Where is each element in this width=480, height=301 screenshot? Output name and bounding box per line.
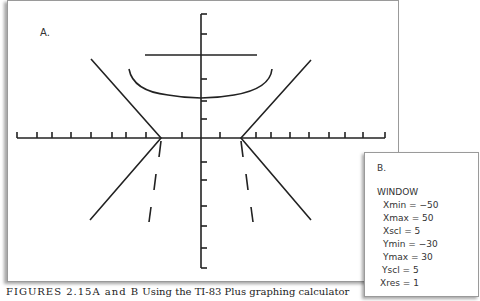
panel-b-label: B.: [377, 163, 386, 173]
panel-a-label: A.: [40, 27, 50, 38]
window-settings-panel-b: B. WINDOW Xmin = −50 Xmax = 50 Xscl = 5 …: [364, 152, 479, 297]
graph-plot: [8, 1, 398, 281]
figure-number: FIGURES 2.15A and B: [6, 286, 139, 297]
setting-ymax: Ymax = 30: [383, 252, 433, 262]
setting-xmax: Xmax = 50: [383, 213, 434, 223]
graph-panel-a: A.: [7, 0, 399, 282]
setting-xres: Xres = 1: [380, 278, 419, 288]
figure-caption: FIGURES 2.15A and B Using the TI-83 Plus…: [6, 286, 349, 297]
window-title: WINDOW: [377, 187, 418, 197]
setting-yscl: Yscl = 5: [382, 265, 419, 275]
caption-text: Using the TI-83 Plus graphing calculator: [142, 286, 349, 297]
y-axis-ticks: [201, 14, 207, 268]
v-shape-right: [241, 60, 311, 220]
setting-xmin: Xmin = −50: [383, 200, 438, 210]
setting-xscl: Xscl = 5: [383, 226, 420, 236]
setting-ymin: Ymin = −30: [383, 239, 438, 249]
v-shape-left: [90, 59, 161, 220]
